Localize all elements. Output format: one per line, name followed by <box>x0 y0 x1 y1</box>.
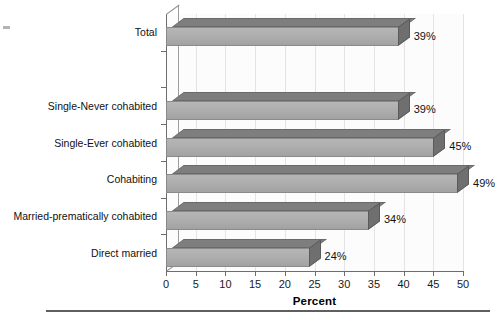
bar: 49% <box>166 165 457 184</box>
bar: 34% <box>166 202 368 221</box>
bar-front-face <box>166 211 368 230</box>
bar-value-label: 45% <box>449 141 471 152</box>
bar: 24% <box>166 239 309 258</box>
x-axis-tick <box>225 271 226 276</box>
bar-top-face <box>172 92 416 101</box>
category-label: Total <box>135 27 157 38</box>
category-label: Cohabiting <box>107 174 157 185</box>
x-axis-tick <box>404 271 405 276</box>
x-axis-tick <box>255 271 256 276</box>
category-label: Single-Ever cohabited <box>54 137 157 148</box>
x-axis-tick-label: 50 <box>443 278 483 290</box>
bar-top-face <box>172 202 386 211</box>
bar-value-label: 34% <box>384 214 406 225</box>
x-axis-tick <box>463 271 464 276</box>
bar-value-label: 39% <box>414 31 436 42</box>
x-axis-tick <box>285 271 286 276</box>
y-axis-tick <box>161 51 166 52</box>
bar-front-face <box>166 101 398 120</box>
x-axis-tick <box>196 271 197 276</box>
y-axis-tick <box>161 161 166 162</box>
chart-figure: 05101520253035404550 TotalSingle-Never c… <box>0 0 498 318</box>
y-axis-tick <box>161 87 166 88</box>
bar-value-label: 24% <box>325 251 347 262</box>
plot-area: 05101520253035404550 TotalSingle-Never c… <box>166 14 463 271</box>
scan-artifact-speck <box>3 26 10 29</box>
bar-top-face <box>172 18 416 27</box>
bar-front-face <box>166 248 309 267</box>
y-axis-tick <box>161 234 166 235</box>
bar-top-face <box>172 239 327 248</box>
x-axis-tick <box>344 271 345 276</box>
footer-rule <box>46 310 490 312</box>
bar: 39% <box>166 18 398 37</box>
bar: 39% <box>166 92 398 111</box>
x-axis-tick <box>374 271 375 276</box>
y-axis-tick <box>161 124 166 125</box>
bar-value-label: 49% <box>473 178 495 189</box>
bar: 45% <box>166 129 433 148</box>
bar-top-face <box>172 129 451 138</box>
x-axis-tick <box>166 271 167 276</box>
bar-front-face <box>166 27 398 46</box>
bar-front-face <box>166 174 457 193</box>
category-label: Direct married <box>91 247 157 258</box>
category-label: Single-Never cohabited <box>48 101 157 112</box>
bar-top-face <box>172 165 475 174</box>
bar-value-label: 39% <box>414 104 436 115</box>
x-axis-tick <box>315 271 316 276</box>
category-label: Married-prematically cohabited <box>13 211 157 222</box>
y-axis-tick <box>161 198 166 199</box>
x-axis-title: Percent <box>166 295 463 307</box>
bar-front-face <box>166 138 433 157</box>
x-axis-tick <box>433 271 434 276</box>
